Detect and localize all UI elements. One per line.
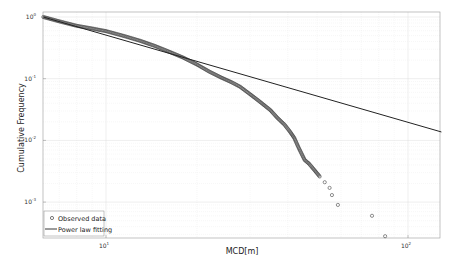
y-tick-label: 10-2 bbox=[24, 135, 36, 143]
observed-data-series bbox=[42, 15, 387, 237]
legend-label-fit: Power law fitting bbox=[58, 226, 112, 234]
grid bbox=[43, 12, 440, 238]
x-tick-label: 101 bbox=[99, 241, 110, 249]
x-tick-label: 102 bbox=[401, 241, 412, 249]
legend: Observed data Power law fitting bbox=[44, 211, 112, 236]
y-axis-label: Cumulative Frequency bbox=[17, 83, 26, 173]
y-tick-label: 100 bbox=[26, 12, 37, 20]
power-law-fit-line bbox=[43, 17, 441, 132]
y-tick-label: 10-3 bbox=[24, 197, 36, 205]
y-tick-label: 10-1 bbox=[24, 74, 36, 82]
plot-area bbox=[43, 12, 440, 238]
x-axis-label: MCD[m] bbox=[226, 247, 259, 256]
legend-label-observed: Observed data bbox=[58, 215, 106, 223]
chart: 10010-110-210-3 101102 MCD[m] Cumulative… bbox=[0, 0, 459, 266]
